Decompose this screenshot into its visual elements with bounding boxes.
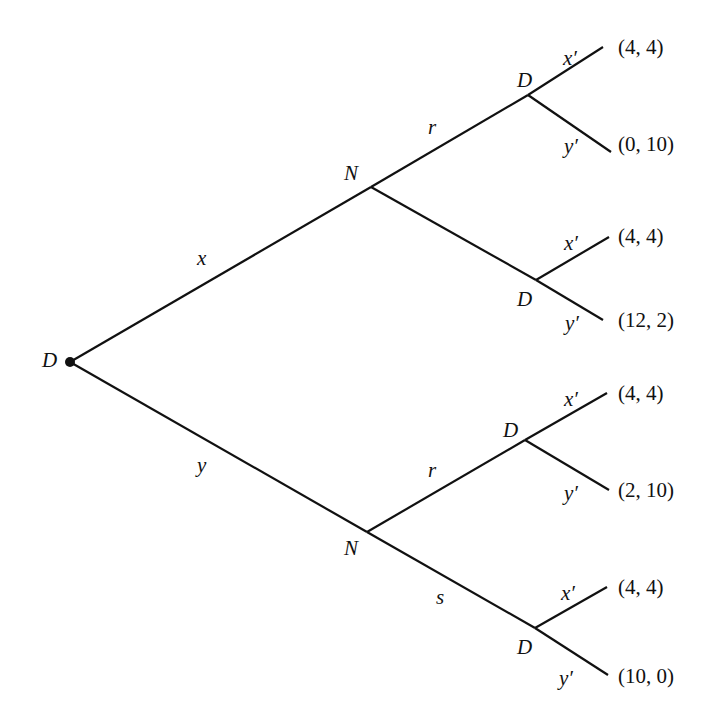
node-label-N1: N [344,163,358,184]
edge-N1-D1 [371,95,528,187]
payoff-T1: (4, 4) [618,37,664,58]
payoff-T3: (4, 4) [618,226,664,247]
tree-edges [70,47,611,675]
edge-label: y [197,455,206,476]
node-label-N2: N [344,538,358,559]
edge-label: x′ [564,233,578,254]
payoff-T7: (4, 4) [618,577,664,598]
node-label-D2: D [517,289,532,310]
game-tree-canvas [0,0,721,724]
edge-N2-D3 [367,440,525,532]
edge-N1-D2 [371,187,536,280]
node-label-D3: D [503,420,518,441]
payoff-T4: (12, 2) [618,310,674,331]
edge-N2-D4 [367,532,535,628]
node-label-root: D [42,350,57,371]
edge-label: s [436,587,444,608]
edge-label: y′ [565,313,579,334]
edge-label: y′ [564,483,578,504]
payoff-T2: (0, 10) [618,134,674,155]
node-label-D1: D [517,70,532,91]
edge-label: r [428,117,436,138]
root-node-dot [65,357,75,367]
edge-label: r [428,460,436,481]
edge-label: x′ [563,48,577,69]
edge-label: y′ [559,668,573,689]
edge-label: x′ [561,583,575,604]
edge-label: x [197,248,206,269]
edge-label: x′ [564,389,578,410]
payoff-T6: (2, 10) [618,480,674,501]
node-label-D4: D [517,637,532,658]
edge-root-N1 [70,187,371,362]
payoff-T5: (4, 4) [618,383,664,404]
payoff-T8: (10, 0) [618,666,674,687]
edge-root-N2 [70,362,367,532]
edge-label: y′ [564,136,578,157]
